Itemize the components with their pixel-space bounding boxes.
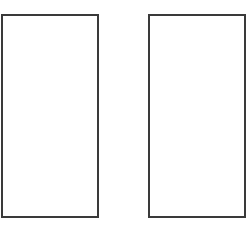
empty-rectangle-left — [1, 14, 99, 218]
empty-rectangle-right — [148, 14, 246, 218]
